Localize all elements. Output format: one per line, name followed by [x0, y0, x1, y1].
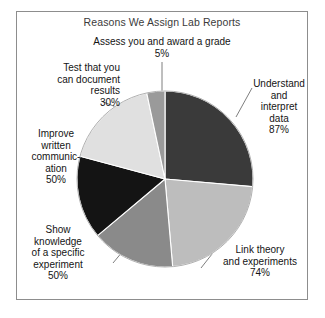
slice-label-show-knowledge-of-a-specific-experiment: Show knowledge of a specific experiment …: [10, 224, 106, 282]
slice-label-link-theory-and-experiments: Link theory and experiments 74%: [204, 244, 316, 279]
slice-label-understand-and-interpret-data: Understand and interpret data 87%: [240, 78, 318, 136]
slice-label-test-that-you-can-document-results: Test that you can document results 30%: [8, 62, 120, 108]
slice-label-improve-written-communication: Improve written communic- ation 50%: [14, 128, 98, 186]
slice-label-assess-you-and-award-a-grade: Assess you and award a grade 5%: [64, 36, 260, 59]
pie-chart-figure: Reasons We Assign Lab Reports Assess you…: [0, 0, 325, 318]
